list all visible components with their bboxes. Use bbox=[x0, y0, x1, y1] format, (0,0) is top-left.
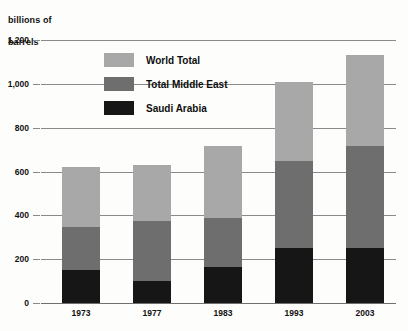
bar-segment-world-total bbox=[62, 167, 100, 227]
legend-item: World Total bbox=[104, 48, 274, 72]
chart-legend: World TotalTotal Middle EastSaudi Arabia bbox=[104, 48, 274, 120]
x-tick-label-1983: 1983 bbox=[204, 308, 242, 318]
bar-group bbox=[62, 40, 100, 303]
bar-segment-world-total bbox=[204, 146, 242, 217]
legend-item: Saudi Arabia bbox=[104, 96, 274, 120]
legend-item: Total Middle East bbox=[104, 72, 274, 96]
legend-swatch-icon bbox=[104, 53, 134, 67]
x-tick-label-1993: 1993 bbox=[275, 308, 313, 318]
y-tick-label-1000: 1,000 bbox=[8, 79, 29, 89]
legend-label: Total Middle East bbox=[146, 79, 228, 90]
bar-segment-saudi-arabia bbox=[204, 267, 242, 303]
y-tick-label-800: 800 bbox=[15, 123, 29, 133]
bar-segment-saudi-arabia bbox=[62, 270, 100, 303]
gridline-0 bbox=[41, 303, 396, 304]
bar-segment-total-middle-east bbox=[346, 146, 384, 248]
legend-swatch-icon bbox=[104, 77, 134, 91]
bar-segment-world-total bbox=[346, 55, 384, 146]
bar-segment-total-middle-east bbox=[62, 227, 100, 270]
bar-segment-total-middle-east bbox=[133, 221, 171, 281]
y-tick-label-0: 0 bbox=[24, 298, 29, 308]
bar-segment-saudi-arabia bbox=[346, 248, 384, 303]
y-tick-mark-400 bbox=[33, 215, 40, 216]
legend-swatch-icon bbox=[104, 101, 134, 115]
y-tick-label-200: 200 bbox=[15, 254, 29, 264]
y-tick-mark-0 bbox=[33, 303, 40, 304]
legend-label: Saudi Arabia bbox=[146, 103, 207, 114]
x-tick-label-1977: 1977 bbox=[133, 308, 171, 318]
y-tick-label-400: 400 bbox=[15, 210, 29, 220]
bar-segment-total-middle-east bbox=[275, 161, 313, 249]
legend-label: World Total bbox=[146, 55, 200, 66]
bar-segment-saudi-arabia bbox=[275, 248, 313, 303]
bar-segment-saudi-arabia bbox=[133, 281, 171, 303]
bar-segment-world-total bbox=[275, 82, 313, 161]
y-tick-label-1200: 1,200 bbox=[8, 35, 29, 45]
x-tick-label-1973: 1973 bbox=[62, 308, 100, 318]
bar-segment-total-middle-east bbox=[204, 218, 242, 267]
y-tick-mark-1200 bbox=[33, 40, 40, 41]
y-tick-mark-800 bbox=[33, 128, 40, 129]
y-tick-label-600: 600 bbox=[15, 167, 29, 177]
x-tick-label-2003: 2003 bbox=[346, 308, 384, 318]
y-tick-mark-1000 bbox=[33, 84, 40, 85]
bar-segment-world-total bbox=[133, 165, 171, 221]
y-tick-mark-200 bbox=[33, 259, 40, 260]
bar-group bbox=[275, 40, 313, 303]
y-tick-mark-600 bbox=[33, 172, 40, 173]
bar-group bbox=[346, 40, 384, 303]
stacked-bar-chart: billions of barrels 1,2001,0008006004002… bbox=[0, 0, 408, 331]
y-axis-title-line1: billions of bbox=[8, 15, 52, 25]
